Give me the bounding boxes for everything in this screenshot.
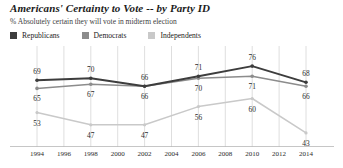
legend-item-democrats: Democrats — [82, 32, 127, 40]
plot-svg — [0, 46, 343, 147]
data-point — [89, 123, 92, 126]
data-point — [143, 123, 146, 126]
data-point — [197, 105, 200, 108]
x-axis-tick-2012: 2012 — [272, 150, 286, 158]
data-point — [197, 74, 201, 78]
data-point — [143, 85, 147, 89]
data-label-democrats-1994: 65 — [33, 94, 40, 103]
data-label-democrats-2006: 70 — [195, 84, 202, 93]
data-label-independents-1994: 53 — [33, 118, 40, 127]
x-axis-tick-2014: 2014 — [299, 150, 313, 158]
data-point — [89, 83, 93, 87]
data-point — [35, 79, 39, 83]
data-label-independents-2006: 56 — [195, 112, 202, 121]
data-point — [251, 97, 254, 100]
chart-title: Americans' Certainty to Vote -- by Party… — [10, 2, 210, 14]
data-label-republicans-1994: 69 — [33, 67, 40, 76]
data-point — [304, 85, 308, 89]
data-label-republicans-1998: 70 — [87, 65, 94, 74]
x-axis-tick-2010: 2010 — [245, 150, 259, 158]
legend-label: Republicans — [22, 32, 60, 40]
data-label-independents-2002: 47 — [141, 130, 148, 139]
x-axis-tick-1996: 1996 — [57, 150, 71, 158]
data-label-independents-2010: 60 — [248, 104, 255, 113]
legend-swatch-icon — [148, 32, 155, 39]
data-point — [35, 87, 39, 91]
chart-subtitle: % Absolutely certain they will vote in m… — [10, 17, 177, 26]
data-label-democrats-1998: 67 — [87, 90, 94, 99]
x-axis-tick-2000: 2000 — [111, 150, 125, 158]
legend-swatch-icon — [10, 32, 17, 39]
x-axis-labels: 1994199619982000200220042006200820102012… — [0, 150, 343, 166]
legend-item-republicans: Republicans — [10, 32, 60, 40]
data-label-democrats-2002: 66 — [141, 92, 148, 101]
data-point — [35, 111, 38, 114]
x-axis-tick-1994: 1994 — [30, 150, 44, 158]
x-axis-tick-2004: 2004 — [165, 150, 179, 158]
data-label-republicans-2014: 68 — [302, 69, 309, 78]
data-label-independents-2014: 43 — [302, 138, 309, 147]
data-label-democrats-2010: 71 — [248, 82, 255, 91]
data-label-democrats-2014: 66 — [302, 92, 309, 101]
x-axis-tick-2002: 2002 — [138, 150, 152, 158]
legend-item-independents: Independents — [148, 32, 201, 40]
x-axis-tick-2008: 2008 — [218, 150, 232, 158]
data-label-republicans-2006: 71 — [195, 63, 202, 72]
data-point — [304, 81, 308, 85]
legend-label: Independents — [160, 32, 201, 40]
data-point — [304, 131, 307, 134]
data-label-independents-1998: 47 — [87, 130, 94, 139]
x-axis-tick-1998: 1998 — [84, 150, 98, 158]
data-point — [89, 76, 93, 80]
plot-area — [0, 46, 343, 147]
chart-container: Americans' Certainty to Vote -- by Party… — [0, 0, 343, 168]
legend-label: Democrats — [94, 32, 127, 40]
data-label-republicans-2010: 76 — [248, 53, 255, 62]
data-point — [250, 64, 254, 68]
data-point — [250, 74, 254, 78]
x-axis-tick-2006: 2006 — [191, 150, 205, 158]
chart-legend: RepublicansDemocratsIndependents — [10, 32, 223, 40]
legend-swatch-icon — [82, 32, 89, 39]
data-label-republicans-2002: 66 — [141, 73, 148, 82]
